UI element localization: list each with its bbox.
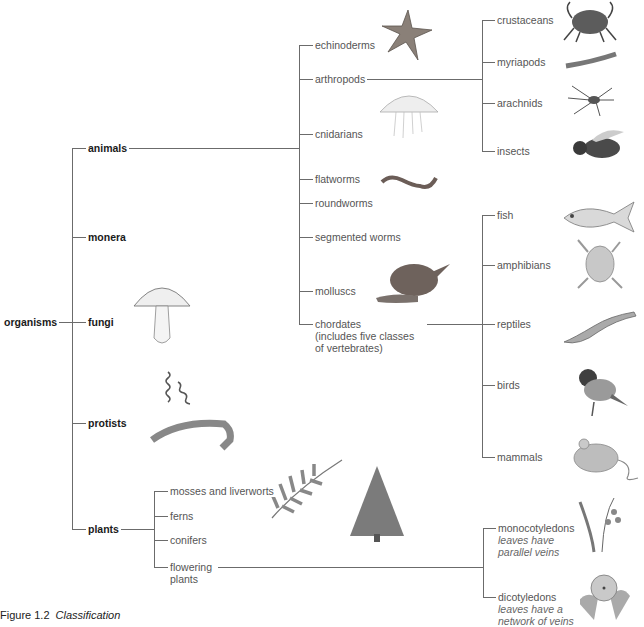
plant-conifers: conifers xyxy=(168,534,209,546)
snail-illustration xyxy=(374,258,454,308)
frog-illustration xyxy=(574,236,626,292)
figure-number: Figure 1.2 xyxy=(0,609,50,621)
flowering-label-line1: flowering xyxy=(170,561,216,573)
fish-illustration xyxy=(560,196,640,236)
monocot-desc-line1: leaves have xyxy=(498,534,578,546)
class-myriapods: myriapods xyxy=(495,56,547,68)
millipede-illustration xyxy=(562,48,622,72)
figure-title: Classification xyxy=(56,609,121,621)
phylum-arthropods: arthropods xyxy=(313,73,367,85)
phylum-segmented-worms: segmented worms xyxy=(313,231,403,243)
monocot-desc-line2: parallel veins xyxy=(498,546,578,558)
mouse-illustration xyxy=(566,434,642,482)
bee-illustration xyxy=(566,126,626,168)
mushroom-illustration xyxy=(132,280,192,350)
lizard-illustration xyxy=(560,302,640,348)
bird-illustration xyxy=(570,362,630,418)
protist-illustration xyxy=(150,414,240,454)
class-mammals: mammals xyxy=(495,451,545,463)
figure-caption: Figure 1.2Classification xyxy=(0,609,120,621)
phylum-cnidarians: cnidarians xyxy=(313,128,365,140)
dicot-desc-line2: network of veins xyxy=(498,615,578,627)
kingdom-animals: animals xyxy=(86,142,129,154)
class-monocotyledons: monocotyledons leaves have parallel vein… xyxy=(496,522,580,558)
plant-ferns: ferns xyxy=(168,510,195,522)
starfish-illustration xyxy=(370,8,440,62)
worm-illustration xyxy=(380,172,440,194)
kingdom-protists: protists xyxy=(86,417,129,429)
kingdom-fungi: fungi xyxy=(86,316,116,328)
class-birds: birds xyxy=(495,379,522,391)
chordates-label: chordates xyxy=(315,318,361,330)
phylum-flatworms: flatworms xyxy=(313,173,362,185)
bluebell-illustration xyxy=(574,494,624,554)
jellyfish-illustration xyxy=(376,84,442,140)
chordates-note-line1: (includes five classes xyxy=(315,330,425,342)
class-crustaceans: crustaceans xyxy=(495,14,556,26)
crab-illustration xyxy=(560,0,620,44)
plant-mosses-liverworts: mosses and liverworts xyxy=(168,485,276,497)
class-insects: insects xyxy=(495,145,532,157)
root-label: organisms xyxy=(2,316,59,328)
monocot-label: monocotyledons xyxy=(498,522,578,534)
dicot-desc-line1: leaves have a xyxy=(498,603,578,615)
conifer-tree-illustration xyxy=(342,464,412,544)
plant-flowering: flowering plants xyxy=(168,561,218,585)
spider-illustration xyxy=(566,82,616,118)
dicot-label: dicotyledons xyxy=(498,591,578,603)
flowering-label-line2: plants xyxy=(170,573,216,585)
kingdom-monera: monera xyxy=(86,231,128,243)
phylum-roundworms: roundworms xyxy=(313,197,375,209)
kingdom-plants: plants xyxy=(86,523,121,535)
fern-illustration xyxy=(268,458,344,520)
phylum-molluscs: molluscs xyxy=(313,285,358,297)
class-amphibians: amphibians xyxy=(495,259,553,271)
chordates-note-line2: of vertebrates) xyxy=(315,342,425,354)
primrose-illustration xyxy=(576,572,632,622)
phylum-chordates: chordates (includes five classes of vert… xyxy=(313,318,427,354)
class-dicotyledons: dicotyledons leaves have a network of ve… xyxy=(496,591,580,627)
spirilla-bacteria-illustration xyxy=(164,370,204,412)
class-reptiles: reptiles xyxy=(495,318,533,330)
class-fish: fish xyxy=(495,209,515,221)
phylum-echinoderms: echinoderms xyxy=(313,39,377,51)
class-arachnids: arachnids xyxy=(495,97,545,109)
